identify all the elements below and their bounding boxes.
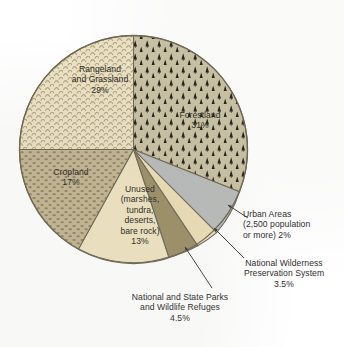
callout-label-wilderness: National Wilderness Preservation System … <box>226 258 342 289</box>
leader-line-parks-refuges <box>185 247 212 288</box>
slice-label-forestland: Forestland 31% <box>157 110 243 131</box>
slice-label-rangeland-grassland: Rangeland and Grassland 29% <box>52 64 148 95</box>
pie-chart: Rangeland and Grassland 29% Forestland 3… <box>0 0 344 347</box>
callout-label-parks-refuges: National and State Parks and Wildlife Re… <box>104 292 256 323</box>
slice-label-unused: Unused (marshes, tundra, deserts, bare r… <box>104 184 176 246</box>
slice-label-cropland: Cropland 17% <box>32 167 110 188</box>
leader-line-wilderness <box>214 228 244 258</box>
callout-label-urban-areas: Urban Areas (2,500 population or more) 2… <box>243 209 343 240</box>
